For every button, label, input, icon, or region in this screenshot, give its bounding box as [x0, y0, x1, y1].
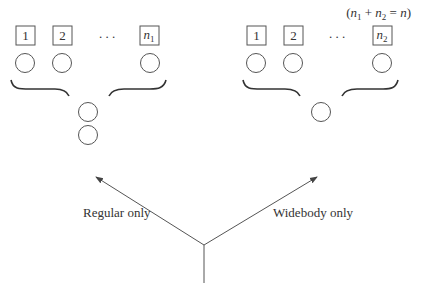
left-brace-left: [11, 80, 69, 96]
right-box-n2-label: n2: [377, 27, 388, 44]
right-server-2: [284, 54, 303, 73]
left-box-2-label: 2: [59, 28, 66, 43]
left-box-1-label: 1: [22, 28, 29, 43]
left-queue-circle-1: [79, 103, 98, 122]
regular-only-label: Regular only: [83, 205, 151, 220]
left-server-1: [16, 54, 35, 73]
left-group: 1 2 . . . n1: [11, 26, 166, 145]
right-server-1: [247, 54, 266, 73]
left-server-n1: [141, 54, 160, 73]
right-box-2-label: 2: [290, 28, 297, 43]
right-server-n2: [373, 54, 392, 73]
left-server-2: [53, 54, 72, 73]
right-box-1-label: 1: [253, 28, 260, 43]
left-ellipsis: . . .: [99, 26, 115, 41]
decision-diagram: 1 2 . . . n1 (n1 + n2 = n) 1 2 . . . n2: [0, 0, 423, 294]
left-queue-circle-2: [79, 126, 98, 145]
right-queue-circle-1: [312, 103, 331, 122]
right-group: (n1 + n2 = n) 1 2 . . . n2: [243, 5, 411, 122]
right-brace-left: [243, 80, 300, 96]
sum-note: (n1 + n2 = n): [346, 5, 411, 22]
widebody-only-label: Widebody only: [273, 205, 353, 220]
right-ellipsis: . . .: [329, 26, 345, 41]
branches: Regular only Widebody only: [83, 177, 353, 283]
right-brace-right: [342, 80, 398, 96]
left-box-n1-label: n1: [144, 27, 155, 44]
left-brace-right: [109, 80, 166, 96]
